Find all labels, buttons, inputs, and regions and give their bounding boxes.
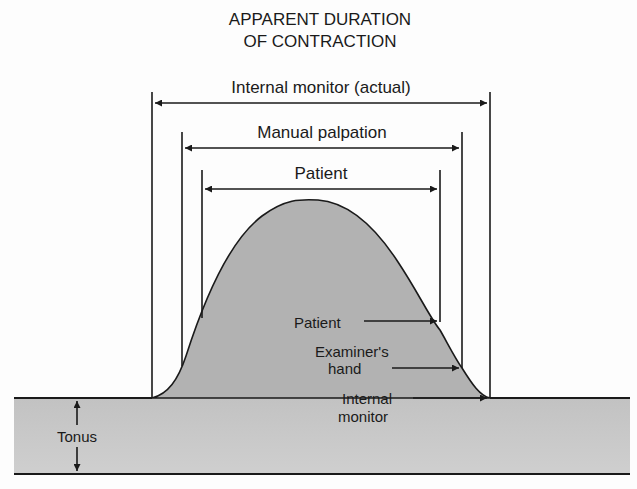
span-label-manual-palpation: Manual palpation bbox=[257, 123, 386, 142]
span-label-internal-monitor: Internal monitor (actual) bbox=[231, 78, 411, 97]
annotation-internal-line2: monitor bbox=[338, 408, 388, 425]
title-line-2: OF CONTRACTION bbox=[244, 32, 397, 51]
diagram-svg: APPARENT DURATION OF CONTRACTION Interna… bbox=[0, 0, 637, 489]
title-line-1: APPARENT DURATION bbox=[229, 10, 411, 29]
annotation-patient: Patient bbox=[294, 314, 342, 331]
tonus-band bbox=[14, 398, 630, 474]
span-label-patient: Patient bbox=[295, 164, 348, 183]
annotation-examiner-line1: Examiner's bbox=[315, 343, 389, 360]
annotation-examiner-line2: hand bbox=[328, 360, 361, 377]
contraction-duration-diagram: APPARENT DURATION OF CONTRACTION Interna… bbox=[0, 0, 637, 489]
tonus-label: Tonus bbox=[57, 428, 97, 445]
annotation-internal-line1: Internal bbox=[342, 390, 392, 407]
